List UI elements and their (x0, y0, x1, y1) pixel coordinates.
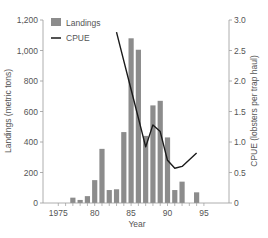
right-tick-label: 1.5 (234, 107, 246, 117)
left-axis-title: Landings (metric tons) (3, 69, 13, 153)
left-tick-label: 400 (24, 137, 38, 147)
landings-bar (70, 198, 75, 203)
left-tick-label: 200 (24, 168, 38, 178)
left-tick-label: 1,200 (17, 15, 39, 25)
right-tick-label: 1.0 (234, 137, 246, 147)
landings-bars (70, 38, 199, 203)
right-tick-label: 2.5 (234, 46, 246, 56)
landings-bar (114, 189, 119, 203)
left-tick-label: 1,000 (17, 46, 39, 56)
left-tick-label: 800 (24, 76, 38, 86)
landings-bar (165, 137, 170, 203)
landings-bar (99, 149, 104, 203)
landings-bar (121, 132, 126, 203)
x-tick-label: 85 (126, 208, 136, 218)
right-tick-label: 0 (234, 198, 239, 208)
left-tick-label: 600 (24, 107, 38, 117)
x-tick-label: 90 (163, 208, 173, 218)
landings-cpue-chart: 02004006008001,0001,200 00.51.01.52.02.5… (0, 0, 268, 238)
landings-bar (85, 196, 90, 203)
landings-bar (158, 101, 163, 203)
x-axis: 197580859095 (43, 203, 229, 218)
landings-bar (172, 190, 177, 203)
legend-landings-label: Landings (66, 18, 101, 28)
legend: Landings CPUE (51, 18, 101, 44)
right-axis-title: CPUE (lobsters per trap haul) (249, 55, 259, 167)
right-tick-label: 2.0 (234, 76, 246, 86)
landings-bar (78, 200, 83, 203)
legend-cpue-label: CPUE (66, 33, 90, 43)
legend-landings-swatch (51, 18, 61, 26)
left-axis: 02004006008001,0001,200 (17, 15, 43, 208)
x-axis-title: Year (128, 219, 145, 229)
x-tick-label: 80 (90, 208, 100, 218)
x-tick-label: 1975 (49, 208, 68, 218)
right-tick-label: 0.5 (234, 168, 246, 178)
x-tick-label: 95 (199, 208, 209, 218)
landings-bar (179, 182, 184, 203)
landings-bar (150, 105, 155, 203)
landings-bar (129, 38, 134, 203)
left-tick-label: 0 (33, 198, 38, 208)
landings-bar (92, 180, 97, 203)
right-tick-label: 3.0 (234, 15, 246, 25)
right-axis: 00.51.01.52.02.53.0 (229, 15, 246, 208)
landings-bar (107, 190, 112, 203)
landings-bar (194, 192, 199, 203)
